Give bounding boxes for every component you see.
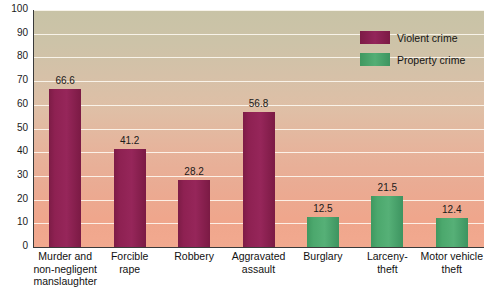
gridline: [33, 10, 484, 11]
x-axis-category-label: Aggravated assault: [226, 250, 290, 275]
y-axis-tick-label: 100: [2, 3, 28, 14]
y-axis-tick-label: 40: [2, 145, 28, 156]
x-axis-category-label: Burglary: [291, 250, 355, 263]
bar-chart: 1009080706050403020100 66.641.228.256.81…: [0, 0, 486, 288]
y-axis-tick-label: 0: [2, 240, 28, 251]
bar-value-label: 66.6: [40, 75, 90, 86]
bar: [371, 196, 403, 247]
y-axis-tick-label: 90: [2, 27, 28, 38]
bar: [114, 149, 146, 247]
x-axis-line: [33, 247, 484, 248]
x-axis-category-label: Larceny- theft: [355, 250, 419, 275]
bar-value-label: 28.2: [169, 166, 219, 177]
bar-value-label: 12.4: [427, 204, 477, 215]
bar: [49, 89, 81, 247]
y-axis-tick-label: 60: [2, 98, 28, 109]
y-axis-tick-label: 50: [2, 122, 28, 133]
legend-swatch-property-crime: [360, 53, 390, 66]
bar-value-label: 12.5: [298, 203, 348, 214]
legend-label-property-crime: Property crime: [397, 54, 465, 66]
bar: [307, 217, 339, 247]
y-axis-tick-label: 10: [2, 216, 28, 227]
y-axis-line: [33, 10, 34, 248]
y-axis-tick-label: 70: [2, 74, 28, 85]
legend-item-violent-crime: Violent crime: [360, 31, 465, 44]
y-axis-tick-label: 80: [2, 50, 28, 61]
x-axis-category-label: Murder and non-negligent manslaughter: [33, 250, 97, 288]
legend-swatch-violent-crime: [360, 31, 390, 44]
bar-value-label: 41.2: [105, 135, 155, 146]
bar-value-label: 21.5: [362, 182, 412, 193]
x-axis-category-label: Forcible rape: [97, 250, 161, 275]
y-axis-tick-label: 20: [2, 193, 28, 204]
bar-value-label: 56.8: [234, 98, 284, 109]
y-axis-tick-label: 30: [2, 169, 28, 180]
legend-item-property-crime: Property crime: [360, 53, 465, 66]
bar: [178, 180, 210, 247]
chart-legend: Violent crime Property crime: [360, 31, 465, 75]
x-axis-category-label: Motor vehicle theft: [420, 250, 484, 275]
gridline: [33, 81, 484, 82]
x-axis-category-label: Robbery: [162, 250, 226, 263]
legend-label-violent-crime: Violent crime: [397, 32, 458, 44]
bar: [243, 112, 275, 247]
bar: [436, 218, 468, 247]
